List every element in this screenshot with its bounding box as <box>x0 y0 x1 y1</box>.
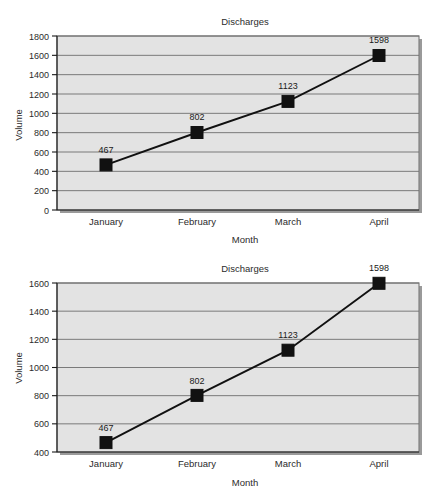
chart-title: Discharges <box>221 263 269 274</box>
x-axis-tick-labels: January February March April <box>89 458 388 469</box>
data-point-marker <box>282 95 294 107</box>
chart-discharges-truncated-baseline: Discharges 1600 1400 1200 1000 <box>0 250 437 494</box>
data-point-label: 1598 <box>369 263 389 273</box>
y-tick-label: 1800 <box>29 32 49 42</box>
x-tick-label: January <box>89 216 123 227</box>
y-tick-label: 1600 <box>29 51 49 61</box>
data-point-label: 467 <box>98 145 113 155</box>
data-point-label: 1123 <box>278 81 297 91</box>
x-tick-label: January <box>89 458 123 469</box>
y-tick-label: 600 <box>34 148 49 158</box>
data-point-marker <box>100 437 112 449</box>
y-tick-label: 1000 <box>29 109 49 119</box>
y-axis-title: Volume <box>13 109 24 141</box>
y-axis-tick-labels: 1600 1400 1200 1000 800 600 400 <box>29 279 49 458</box>
x-tick-label: February <box>178 216 216 227</box>
data-point-marker <box>373 50 385 62</box>
y-tick-label: 800 <box>34 128 49 138</box>
y-tick-label: 1000 <box>29 363 49 373</box>
x-tick-label: February <box>178 458 216 469</box>
y-tick-label: 400 <box>34 167 49 177</box>
chart-discharges-zero-baseline: Discharges <box>0 0 437 250</box>
y-tick-label: 800 <box>34 391 49 401</box>
y-tick-label: 400 <box>34 448 49 458</box>
chart-title: Discharges <box>221 16 269 27</box>
data-point-marker <box>191 127 203 139</box>
data-point-marker <box>373 277 385 289</box>
y-tick-label: 1400 <box>29 70 49 80</box>
y-axis-title: Volume <box>13 352 24 384</box>
x-axis-title: Month <box>232 477 258 488</box>
x-tick-label: March <box>275 216 301 227</box>
data-point-marker <box>100 159 112 171</box>
y-tick-label: 600 <box>34 419 49 429</box>
y-tick-label: 1600 <box>29 279 49 289</box>
chart-canvas-top: Discharges <box>0 0 437 250</box>
data-point-label: 467 <box>98 423 113 433</box>
data-point-label: 802 <box>189 376 204 386</box>
x-tick-label: April <box>369 458 388 469</box>
x-tick-label: April <box>369 216 388 227</box>
y-axis-tick-marks <box>52 36 57 210</box>
y-axis-tick-labels: 1800 1600 1400 1200 1000 800 600 400 200… <box>29 32 49 216</box>
y-tick-label: 200 <box>34 186 49 196</box>
data-point-marker <box>282 344 294 356</box>
y-tick-label: 1400 <box>29 307 49 317</box>
data-point-label: 802 <box>189 112 204 122</box>
x-tick-label: March <box>275 458 301 469</box>
x-axis-tick-labels: January February March April <box>89 216 388 227</box>
chart-canvas-bottom: Discharges 1600 1400 1200 1000 <box>0 250 437 494</box>
y-tick-label: 1200 <box>29 90 49 100</box>
data-point-label: 1123 <box>278 330 297 340</box>
x-axis-title: Month <box>232 234 258 245</box>
data-point-label: 1598 <box>369 35 389 45</box>
data-point-marker <box>191 389 203 401</box>
y-tick-label: 1200 <box>29 335 49 345</box>
y-axis-tick-marks <box>52 283 57 452</box>
y-tick-label: 0 <box>44 206 49 216</box>
